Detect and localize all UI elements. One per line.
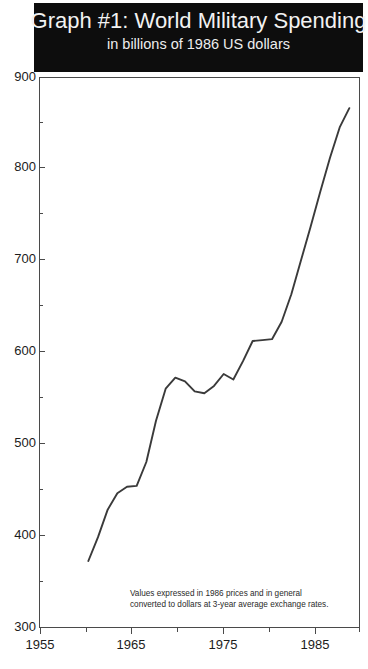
- footnote-line-1: Values expressed in 1986 prices and in g…: [130, 589, 345, 600]
- chart-figure: Graph #1: World Military Spending in bil…: [0, 0, 368, 669]
- x-tick-1985: 1985: [292, 638, 338, 651]
- footnote-line-2: converted to dollars at 3-year average e…: [130, 600, 345, 611]
- x-tick-1965: 1965: [108, 638, 154, 651]
- x-axis-labels: 1955 1965 1975 1985: [0, 0, 368, 669]
- x-tick-1975: 1975: [200, 638, 246, 651]
- x-tick-1955: 1955: [17, 638, 63, 651]
- chart-footnote: Values expressed in 1986 prices and in g…: [130, 589, 345, 610]
